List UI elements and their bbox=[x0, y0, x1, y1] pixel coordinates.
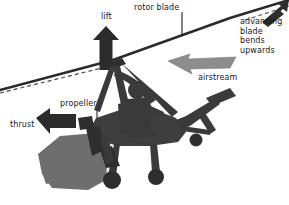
frame-tube-left bbox=[94, 66, 115, 112]
label-advancing-blade-bends-upwards: advancing blade bends upwards bbox=[240, 17, 289, 55]
main-wheel-right bbox=[148, 169, 164, 185]
arrow-left-icon bbox=[36, 108, 76, 134]
label-rotor-blade: rotor blade bbox=[134, 3, 179, 13]
label-airstream: airstream bbox=[198, 73, 237, 83]
label-lift: lift bbox=[101, 12, 112, 22]
label-propeller: propeller bbox=[60, 99, 97, 109]
tailplane bbox=[206, 88, 236, 106]
arrow-left-swept-icon bbox=[168, 54, 236, 74]
main-wheel-left bbox=[103, 171, 121, 189]
gyrocopter-diagram: rotor blade lift advancing blade bends u… bbox=[0, 0, 289, 205]
landing-gear-right bbox=[150, 144, 160, 172]
tail-wheel bbox=[190, 134, 203, 147]
label-thrust: thrust bbox=[10, 120, 34, 130]
